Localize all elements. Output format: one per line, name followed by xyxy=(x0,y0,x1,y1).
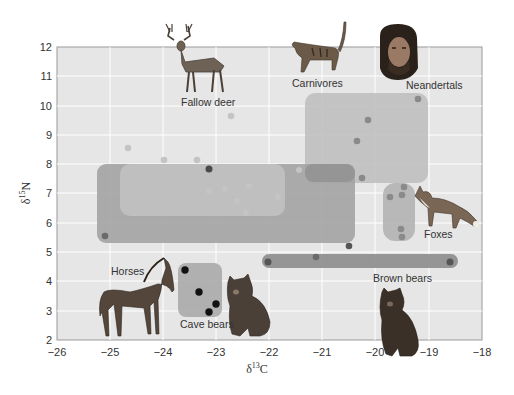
label-cave-bears: Cave bears xyxy=(180,318,234,330)
x-axis-ticks: −26 −25 −24 −23 −22 −21 −20 −19 −18 xyxy=(48,346,492,358)
y-axis-ticks: 2 3 4 5 6 7 8 9 10 11 12 xyxy=(40,41,52,346)
svg-text:−26: −26 xyxy=(48,346,67,358)
svg-text:4: 4 xyxy=(46,275,52,287)
svg-text:−24: −24 xyxy=(154,346,173,358)
svg-text:−19: −19 xyxy=(420,346,439,358)
svg-text:2: 2 xyxy=(46,334,52,346)
svg-text:12: 12 xyxy=(40,41,52,53)
svg-text:−21: −21 xyxy=(313,346,332,358)
y-axis-label: δ15N xyxy=(18,182,33,205)
svg-text:11: 11 xyxy=(41,70,52,82)
svg-text:−25: −25 xyxy=(101,346,120,358)
svg-text:−18: −18 xyxy=(473,346,492,358)
label-fallow-deer: Fallow deer xyxy=(181,96,236,108)
svg-text:6: 6 xyxy=(46,217,52,229)
svg-text:−23: −23 xyxy=(207,346,226,358)
svg-text:−20: −20 xyxy=(366,346,385,358)
svg-text:5: 5 xyxy=(46,246,52,258)
label-neandertals: Neandertals xyxy=(406,79,463,91)
label-brown-bears: Brown bears xyxy=(373,272,432,284)
carnivore-range-box xyxy=(305,164,355,182)
fox-range-box xyxy=(383,183,415,241)
svg-text:−22: −22 xyxy=(260,346,279,358)
fallow-deer-range-box xyxy=(120,164,285,216)
label-horses: Horses xyxy=(111,265,144,277)
label-carnivores: Carnivores xyxy=(292,77,343,89)
neandertal-icon xyxy=(380,24,418,80)
svg-text:10: 10 xyxy=(40,100,52,112)
label-foxes: Foxes xyxy=(424,228,453,240)
svg-text:9: 9 xyxy=(46,129,52,141)
x-axis-label: δ13C xyxy=(246,361,268,376)
svg-text:3: 3 xyxy=(46,305,52,317)
brown-bear-range-bar xyxy=(262,254,458,268)
isotope-scatter-chart: Fallow deer Carnivores Neandertals Foxes… xyxy=(0,0,514,395)
svg-text:7: 7 xyxy=(46,187,52,199)
svg-text:8: 8 xyxy=(46,158,52,170)
